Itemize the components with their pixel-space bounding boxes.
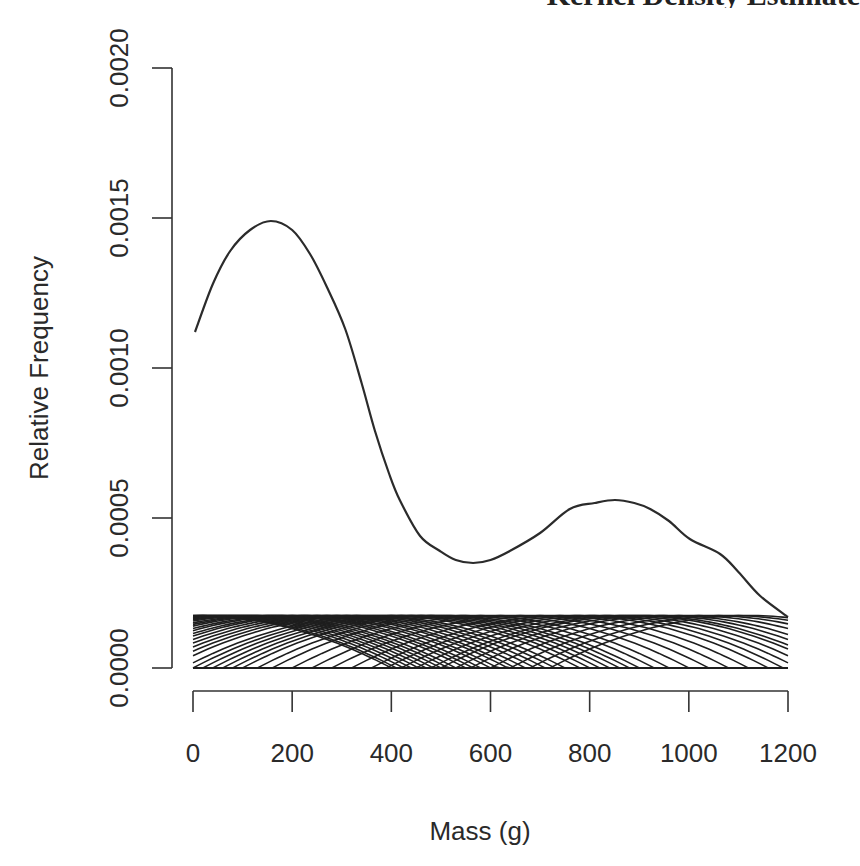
x-tick-label: 800 (568, 738, 611, 768)
y-tick-label: 0.0015 (104, 178, 134, 258)
y-tick-label: 0.0010 (104, 328, 134, 408)
density-curve (195, 221, 788, 617)
x-tick-label: 600 (469, 738, 512, 768)
x-tick-label: 1200 (759, 738, 817, 768)
x-tick-label: 400 (370, 738, 413, 768)
y-tick-label: 0.0000 (104, 628, 134, 708)
x-tick-label: 1000 (660, 738, 718, 768)
x-axis-title: Mass (g) (429, 816, 530, 846)
kernel-curves (193, 616, 788, 669)
x-axis: 020040060080010001200 (186, 691, 817, 768)
y-tick-label: 0.0005 (104, 478, 134, 558)
x-tick-label: 0 (186, 738, 200, 768)
y-tick-label: 0.0020 (104, 28, 134, 108)
y-axis: 0.00000.00050.00100.00150.0020 (104, 28, 172, 708)
y-axis-title: Relative Frequency (24, 256, 54, 480)
x-tick-label: 200 (270, 738, 313, 768)
